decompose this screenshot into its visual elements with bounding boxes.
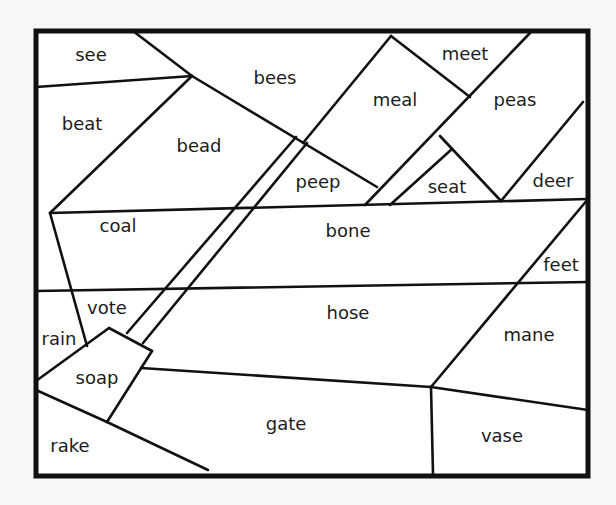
region-word-bone[interactable]: bone [326,222,371,240]
region-word-bead[interactable]: bead [177,137,222,155]
region-word-peas[interactable]: peas [494,91,537,109]
region-word-soap[interactable]: soap [76,369,119,387]
region-word-mane[interactable]: mane [503,326,554,344]
region-word-coal[interactable]: coal [100,217,137,235]
region-word-seat[interactable]: seat [428,178,467,196]
puzzle-drawing [0,0,616,505]
region-word-gate[interactable]: gate [266,415,307,433]
region-word-vase[interactable]: vase [481,427,523,445]
region-word-rake[interactable]: rake [50,437,89,455]
region-word-vote[interactable]: vote [87,299,127,317]
region-word-beat[interactable]: beat [62,115,103,133]
region-word-meet[interactable]: meet [442,45,489,63]
region-word-peep[interactable]: peep [296,173,341,191]
region-word-hose[interactable]: hose [327,304,370,322]
region-word-see[interactable]: see [75,46,107,64]
region-word-bees[interactable]: bees [254,69,297,87]
region-word-deer[interactable]: deer [533,172,574,190]
region-word-rain[interactable]: rain [42,330,77,348]
region-word-meal[interactable]: meal [373,91,418,109]
region-word-feet[interactable]: feet [543,256,579,274]
